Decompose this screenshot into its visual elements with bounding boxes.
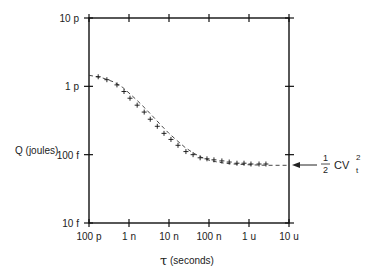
fraction-denominator: 2 <box>323 165 328 175</box>
y-axis-ticks: 10 p1 p100 f10 f <box>57 13 294 229</box>
plus-marker <box>176 143 181 148</box>
x-tick-label: 100 p <box>76 231 101 242</box>
plus-marker <box>96 74 101 79</box>
annotation-body: CV <box>334 159 350 171</box>
plus-marker <box>263 162 268 167</box>
y-axis-title: Q (joules) <box>15 145 58 156</box>
x-axis-unit: (seconds) <box>170 255 214 266</box>
plus-marker <box>234 161 239 166</box>
annotation-superscript: 2 <box>356 153 361 162</box>
y-tick-label: 100 f <box>57 150 79 161</box>
plus-marker <box>155 124 160 129</box>
plus-marker <box>248 162 253 167</box>
x-tick-label: 1 u <box>242 231 256 242</box>
plus-marker <box>198 155 203 160</box>
y-tick-label: 10 f <box>62 218 79 229</box>
x-tick-label: 10 n <box>159 231 178 242</box>
y-tick-label: 10 p <box>60 13 80 24</box>
arrow-head-icon <box>292 162 300 168</box>
plus-marker <box>257 162 262 167</box>
annotation-subscript: t <box>356 166 359 175</box>
plus-marker <box>128 96 133 101</box>
x-tick-label: 10 u <box>279 231 298 242</box>
tau-symbol: τ <box>160 253 167 268</box>
plus-marker <box>104 77 109 82</box>
plus-marker <box>191 152 196 157</box>
plus-marker <box>135 103 140 108</box>
x-axis-ticks: 100 p1 n10 n100 n1 u10 u <box>76 14 298 242</box>
plot-border <box>89 18 289 223</box>
plus-marker <box>168 137 173 142</box>
plot-frame <box>89 18 289 223</box>
asymptote-annotation: 1 2 CV 2 t <box>292 153 361 175</box>
plus-marker <box>122 89 127 94</box>
plus-marker <box>162 131 167 136</box>
plus-marker <box>242 161 247 166</box>
model-curve-path <box>89 75 289 165</box>
y-tick-label: 1 p <box>65 81 79 92</box>
plus-marker <box>183 149 188 154</box>
model-dashed-curve <box>89 75 289 165</box>
fraction-numerator: 1 <box>323 153 328 163</box>
plus-marker <box>148 117 153 122</box>
plus-marker <box>114 82 119 87</box>
chart: 100 p1 n10 n100 n1 u10 u 10 p1 p100 f10 … <box>0 0 370 276</box>
x-tick-label: 1 n <box>122 231 136 242</box>
x-axis-title: τ (seconds) <box>160 253 214 268</box>
x-tick-label: 100 n <box>196 231 221 242</box>
measured-markers <box>96 74 269 166</box>
plus-marker <box>142 110 147 115</box>
